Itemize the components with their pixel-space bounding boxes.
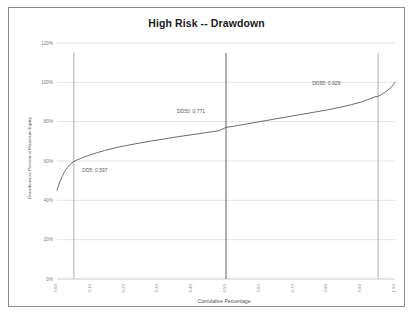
chart-svg: 0%20%40%60%80%100%120% 0.000.100.200.300… [9,8,406,308]
x-tick-label: 0.60 [256,283,261,292]
plot-area: 0%20%40%60%80%100%120% 0.000.100.200.300… [9,8,406,308]
y-tick-label: 20% [44,237,53,242]
y-tick-label: 0% [46,277,53,282]
x-axis-title: Cumulative Percentage [198,298,251,304]
x-tick-label: 0.40 [188,283,193,292]
x-tick-label: 0.00 [53,283,58,292]
x-tick-label: 0.80 [323,283,328,292]
y-tick-label: 120% [41,41,53,46]
y-axis-ticks: 0%20%40%60%80%100%120% [41,41,53,282]
reference-lines-group [74,53,378,279]
y-axis-title: Drawdown as Percent of Maximum Equity [27,116,32,198]
dd50-label: DD50: 0.771 [177,108,205,114]
x-tick-label: 0.10 [87,283,92,292]
y-tick-label: 100% [41,80,53,85]
x-tick-label: 0.30 [154,283,159,292]
dd5-label: DD5: 0.597 [82,167,108,173]
x-tick-label: 0.90 [357,283,362,292]
x-tick-label: 1.00 [391,283,396,292]
x-tick-label: 0.50 [222,283,227,292]
x-tick-label: 0.20 [121,283,126,292]
chart-container: High Risk -- Drawdown 0%20%40%60%80%100%… [8,7,405,307]
annotations-group: DD5: 0.597DD50: 0.771DD95: 0.929 [82,80,340,173]
y-tick-label: 80% [44,119,53,124]
y-tick-label: 60% [44,159,53,164]
x-tick-label: 0.70 [290,283,295,292]
y-tick-label: 40% [44,198,53,203]
dd95-label: DD95: 0.929 [312,80,340,86]
x-axis-ticks: 0.000.100.200.300.400.500.600.700.800.90… [53,283,396,292]
